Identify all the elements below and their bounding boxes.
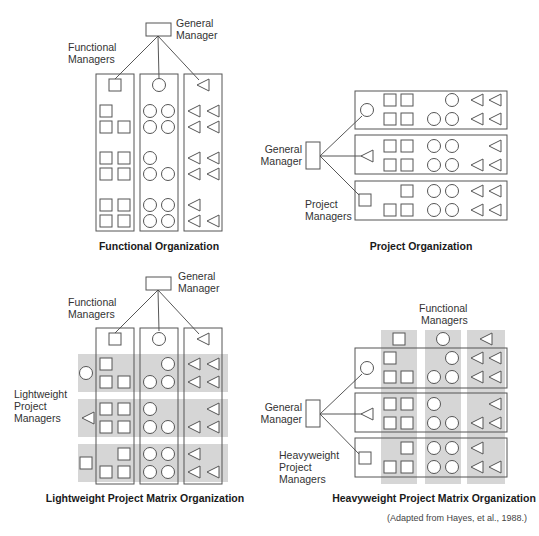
general-manager-label: General — [265, 401, 302, 413]
lightweight-project-managers-label-3: Managers — [14, 412, 61, 424]
functional-managers-label: Functional — [68, 41, 116, 53]
general-manager-box — [146, 23, 171, 36]
lightweight-pm-square-icon — [80, 457, 92, 469]
general-manager-label-2: Manager — [261, 155, 303, 167]
heavyweight-pm-square-icon — [359, 452, 371, 464]
lightweight-matrix-caption: Lightweight Project Matrix Organization — [46, 492, 244, 504]
functional-managers-label-2: Managers — [68, 308, 115, 320]
functional-column-triangles — [184, 74, 222, 231]
functional-manager-triangle-icon — [197, 79, 209, 91]
heavyweight-pm-triangle-icon — [361, 408, 373, 420]
functional-managers-label-2: Managers — [68, 53, 115, 65]
project-manager-circle-icon — [361, 104, 374, 117]
general-manager-label-2: Manager — [261, 413, 303, 425]
functional-manager-square-icon — [109, 79, 121, 91]
functional-organization-panel: General Manager Functional Managers — [68, 17, 222, 252]
heavyweight-pm-circle-icon — [361, 362, 374, 375]
project-organization-caption: Project Organization — [370, 240, 473, 252]
general-manager-box — [306, 142, 320, 169]
project-manager-square-icon — [359, 194, 371, 206]
heavyweight-project-managers-label-2: Project — [279, 461, 312, 473]
heavyweight-project-managers-label: Heavyweight — [279, 449, 339, 461]
heavyweight-project-managers-label-3: Managers — [279, 473, 326, 485]
general-manager-label-2: Manager — [178, 282, 220, 294]
lightweight-matrix-panel: General Manager Functional Managers Ligh… — [14, 270, 244, 504]
org-structures-diagram: General Manager Functional Managers — [0, 0, 539, 536]
functional-manager-circle-icon — [153, 79, 166, 92]
general-manager-label-2: Manager — [176, 29, 218, 41]
general-manager-box — [146, 277, 171, 290]
functional-managers-label-2: Managers — [421, 314, 468, 326]
general-manager-label: General — [178, 270, 215, 282]
general-manager-label: General — [265, 143, 302, 155]
functional-managers-label: Functional — [68, 296, 116, 308]
project-manager-triangle-icon — [361, 150, 373, 162]
general-manager-label: General — [176, 17, 213, 29]
general-manager-box — [306, 400, 320, 427]
heavyweight-matrix-caption: Heavyweight Project Matrix Organization — [332, 492, 536, 504]
functional-managers-label: Functional — [419, 302, 467, 314]
project-managers-label-2: Managers — [305, 210, 352, 222]
citation: (Adapted from Hayes, et al., 1988.) — [387, 513, 527, 523]
lightweight-pm-circle-icon — [80, 367, 93, 380]
heavyweight-matrix-panel: Functional Managers General Manager Heav… — [261, 302, 536, 523]
project-organization-panel: General Manager Project Managers P — [261, 91, 507, 252]
functional-organization-caption: Functional Organization — [99, 240, 219, 252]
project-managers-label: Project — [305, 198, 338, 210]
lightweight-project-managers-label: Lightweight — [14, 388, 67, 400]
lightweight-project-managers-label-2: Project — [14, 400, 47, 412]
